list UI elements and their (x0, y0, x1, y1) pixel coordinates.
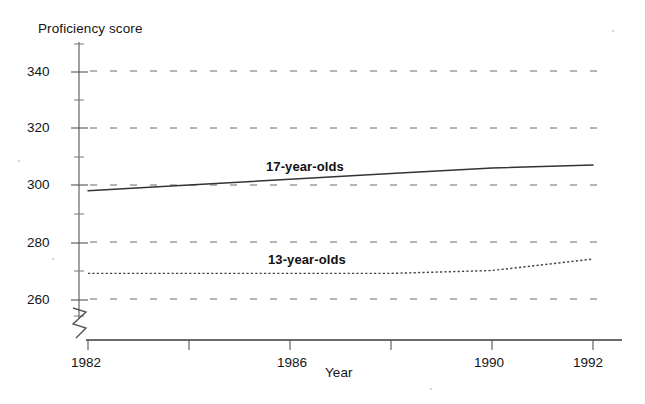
scan-artifact (18, 160, 20, 162)
chart-canvas (0, 0, 645, 404)
grid-lines (90, 71, 597, 299)
series-line-17-year-olds (88, 165, 593, 191)
series-line-13-year-olds (88, 259, 593, 273)
scan-artifact (52, 258, 54, 260)
series-17-year-olds (88, 165, 593, 191)
scan-artifact (612, 30, 614, 32)
y-axis (71, 42, 88, 318)
proficiency-score-line-chart: Proficiency score Year 340 320 300 280 2… (0, 0, 645, 404)
series-13-year-olds (88, 259, 593, 273)
x-axis (86, 340, 622, 350)
scan-artifact (430, 388, 432, 390)
